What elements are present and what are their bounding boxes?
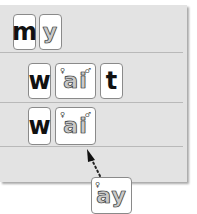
character-figure-icon: ♀: [95, 181, 100, 189]
card-letter: ay: [96, 185, 127, 207]
letter-card-ay-dragged[interactable]: ♀ ay: [91, 177, 132, 214]
